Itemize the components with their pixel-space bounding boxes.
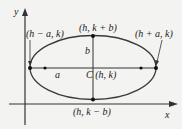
right-vertex-pointer (157, 40, 162, 62)
top-vertex-point (91, 34, 95, 38)
left-vertex-pointer-arrow-icon (28, 61, 32, 66)
semi-minor-label: b (85, 45, 90, 56)
left-vertex-label: (h − a, k) (26, 28, 65, 40)
x-axis-arrow-icon (169, 101, 178, 107)
semi-major-label: a (55, 69, 60, 80)
bottom-vertex-label: (h, k − b) (73, 106, 112, 118)
left-vertex-point (28, 66, 32, 70)
x-axis-label: x (164, 109, 170, 120)
ellipse-diagram: y x (h − a, k) (h, k + b) (h + a, k) b a… (0, 0, 182, 129)
left-focus-point (43, 66, 46, 69)
bottom-vertex-point (91, 98, 95, 102)
right-vertex-label: (h + a, k) (135, 28, 174, 40)
right-vertex-point (154, 66, 158, 70)
top-vertex-label: (h, k + b) (79, 22, 118, 34)
y-axis-label: y (13, 6, 19, 17)
right-focus-point (139, 66, 142, 69)
y-axis-arrow-icon (22, 8, 28, 16)
center-label: C (h, k) (86, 69, 117, 81)
